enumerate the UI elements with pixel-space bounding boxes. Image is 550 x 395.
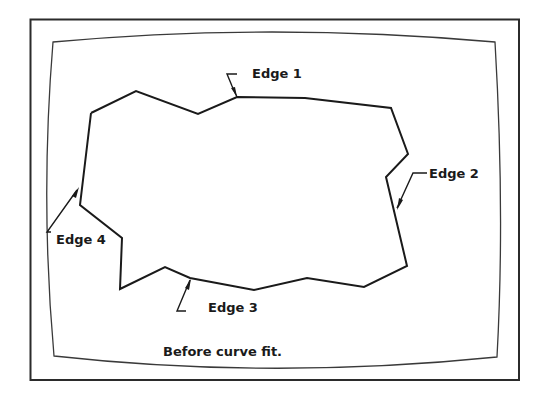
edge-3-callout: Edge 3 — [177, 279, 258, 315]
screen-outline — [47, 32, 501, 368]
edge-4-arrowhead-icon — [72, 187, 79, 198]
edge-2-callout: Edge 2 — [397, 166, 479, 210]
edge-2-label: Edge 2 — [429, 166, 479, 181]
edge-3-arrowhead-icon — [185, 279, 191, 290]
edge-1-arrowhead-icon — [231, 87, 237, 97]
outer-rectangle-final — [31, 20, 244, 185]
edge-2-leader-line — [397, 173, 427, 208]
edge-1-label: Edge 1 — [252, 66, 302, 81]
edge-polygon — [80, 91, 408, 290]
edge-2-arrowhead-icon — [397, 198, 403, 210]
edge-1-callout: Edge 1 — [227, 66, 302, 97]
edge-4-leader-line — [47, 190, 77, 232]
edge-4-callout: Edge 4 — [47, 187, 106, 247]
edge-4-label: Edge 4 — [56, 232, 106, 247]
figure-caption: Before curve fit. — [163, 344, 282, 359]
final-diagram: Edge 1 Edge 2 Edge 3 Edge 4 Before curve… — [0, 0, 550, 395]
edge-3-label: Edge 3 — [208, 300, 258, 315]
